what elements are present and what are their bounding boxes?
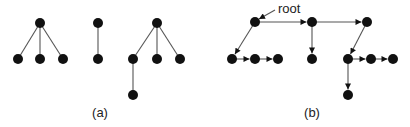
node-t1 bbox=[343, 90, 353, 100]
node-c4 bbox=[175, 54, 185, 64]
panel-a-forest: (a) bbox=[13, 18, 185, 120]
node-p3 bbox=[273, 54, 283, 64]
node-c5 bbox=[128, 90, 138, 100]
edge-r-p1 bbox=[235, 22, 255, 54]
panel-caption-a: (a) bbox=[92, 105, 108, 120]
node-q1 bbox=[307, 54, 317, 64]
node-p2 bbox=[250, 54, 260, 64]
node-c1 bbox=[152, 18, 162, 28]
node-a1 bbox=[35, 18, 45, 28]
node-s2 bbox=[366, 54, 376, 64]
node-s3 bbox=[388, 54, 398, 64]
node-r bbox=[250, 17, 260, 27]
node-a4 bbox=[58, 54, 68, 64]
root-pointer-arrow bbox=[259, 10, 275, 19]
node-c2 bbox=[128, 54, 138, 64]
node-b1 bbox=[93, 18, 103, 28]
node-n bbox=[362, 17, 372, 27]
edge-a1-a4 bbox=[40, 23, 63, 59]
node-a3 bbox=[35, 54, 45, 64]
node-m bbox=[307, 17, 317, 27]
node-c3 bbox=[152, 54, 162, 64]
root-label: root bbox=[278, 1, 301, 16]
node-p1 bbox=[227, 54, 237, 64]
edge-a1-a2 bbox=[18, 23, 40, 59]
edge-c1-c4 bbox=[157, 23, 180, 59]
node-s1 bbox=[343, 54, 353, 64]
node-b2 bbox=[93, 54, 103, 64]
node-a2 bbox=[13, 54, 23, 64]
edge-c1-c2 bbox=[133, 23, 157, 59]
panel-caption-b: (b) bbox=[304, 105, 320, 120]
panel-b-linked-tree: root(b) bbox=[227, 1, 398, 120]
edge-n-s1 bbox=[351, 22, 367, 54]
tree-diagram: (a) root(b) bbox=[0, 0, 410, 127]
